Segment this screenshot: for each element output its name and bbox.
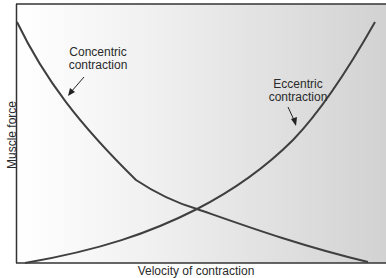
eccentric-annotation-line2: contraction: [258, 91, 338, 104]
concentric-annotation: Concentric contraction: [58, 46, 138, 72]
eccentric-annotation: Eccentric contraction: [258, 78, 338, 104]
y-axis-label: Muscle force: [5, 85, 19, 185]
concentric-annotation-line2: contraction: [58, 59, 138, 72]
plot-area: [16, 4, 386, 263]
x-axis-label: Velocity of contraction: [116, 264, 276, 278]
